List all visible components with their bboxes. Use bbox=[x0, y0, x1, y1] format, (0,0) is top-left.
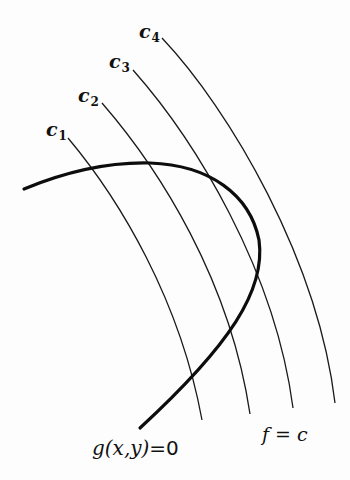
label-c4-sub: 4 bbox=[152, 31, 160, 45]
label-c2-sub: 2 bbox=[91, 95, 99, 109]
label-c3-sub: 3 bbox=[122, 61, 130, 75]
diagram-canvas: c1 c2 c3 c4 g(x,y)=0 f = c bbox=[0, 0, 350, 480]
label-c4-name: c bbox=[139, 20, 151, 42]
label-c3-name: c bbox=[109, 50, 121, 72]
level-curve-c3 bbox=[133, 70, 293, 408]
label-c3: c3 bbox=[109, 50, 130, 75]
constraint-lhs: g(x,y) bbox=[92, 436, 149, 460]
label-c4: c4 bbox=[139, 20, 160, 45]
level-curve-c4 bbox=[162, 38, 335, 403]
constraint-eq: = bbox=[149, 436, 166, 460]
diagram-svg bbox=[0, 0, 350, 480]
label-c1-sub: 1 bbox=[59, 129, 67, 143]
level-curve-c1 bbox=[68, 138, 202, 420]
constraint-rhs: 0 bbox=[166, 436, 179, 460]
level-curve-c2 bbox=[102, 103, 250, 414]
label-c2: c2 bbox=[78, 84, 99, 109]
level-set-label: f = c bbox=[262, 423, 308, 445]
constraint-label: g(x,y)=0 bbox=[92, 436, 179, 460]
label-c2-name: c bbox=[78, 84, 90, 106]
label-c1-name: c bbox=[46, 118, 58, 140]
label-c1: c1 bbox=[46, 118, 67, 143]
